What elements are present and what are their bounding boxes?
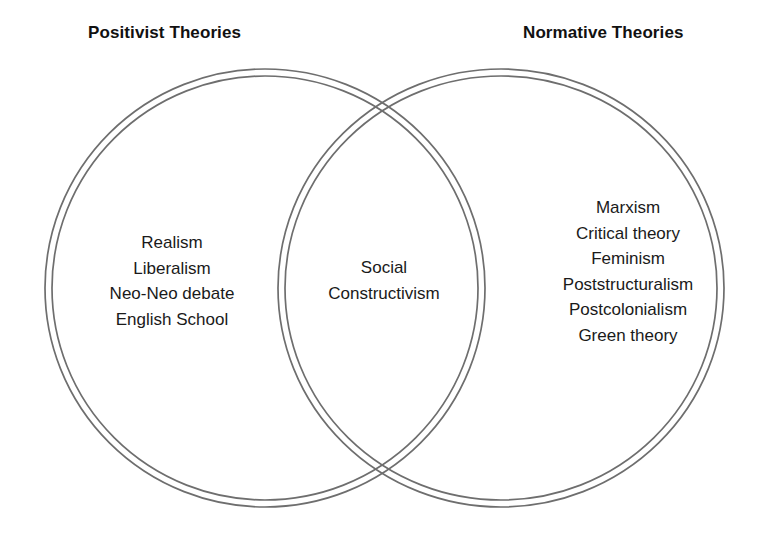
list-item: Critical theory (518, 221, 738, 247)
list-item: English School (57, 307, 287, 333)
list-item: Neo-Neo debate (57, 281, 287, 307)
list-item: Liberalism (57, 256, 287, 282)
list-item: Feminism (518, 246, 738, 272)
list-item: Realism (57, 230, 287, 256)
list-item: Poststructuralism (518, 272, 738, 298)
left-set-items: Realism Liberalism Neo-Neo debate Englis… (57, 230, 287, 332)
intersection-items: Social Constructivism (300, 255, 468, 306)
list-item: Marxism (518, 195, 738, 221)
list-item: Social (300, 255, 468, 281)
list-item: Constructivism (300, 281, 468, 307)
venn-diagram: Positivist Theories Normative Theories R… (0, 0, 770, 533)
list-item: Green theory (518, 323, 738, 349)
right-set-items: Marxism Critical theory Feminism Poststr… (518, 195, 738, 348)
list-item: Postcolonialism (518, 297, 738, 323)
